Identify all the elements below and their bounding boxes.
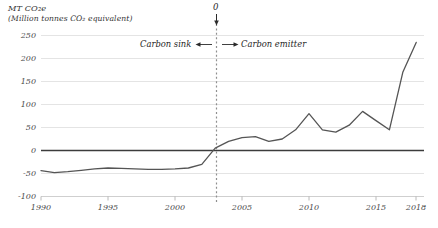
chart-container: MT CO₂e (Million tonnes CO₂ equivalent) bbox=[0, 0, 438, 228]
y-axis-unit-title: MT CO₂e bbox=[8, 3, 46, 13]
y-tick-label-minus100: -100 bbox=[10, 192, 36, 201]
y-axis-unit-subtitle: (Million tonnes CO₂ equivalent) bbox=[8, 14, 132, 25]
y-tick-label-50: 50 bbox=[10, 123, 36, 132]
x-tick-label-2010: 2010 bbox=[289, 203, 329, 212]
carbon-sink-label: Carbon sink bbox=[140, 39, 191, 49]
x-axis-ticks bbox=[41, 197, 416, 201]
x-tick-label-2015: 2015 bbox=[356, 203, 396, 212]
carbon-sink-arrow-icon bbox=[196, 42, 213, 47]
x-tick-label-2000: 2000 bbox=[155, 203, 195, 212]
y-tick-label-250: 250 bbox=[10, 31, 36, 40]
y-tick-label-0: 0 bbox=[10, 146, 36, 155]
y-tick-label-200: 200 bbox=[10, 54, 36, 63]
x-tick-label-2005: 2005 bbox=[222, 203, 262, 212]
zero-crossing-label: 0 bbox=[213, 2, 218, 12]
x-tick-label-1995: 1995 bbox=[88, 203, 128, 212]
x-tick-label-1990: 1990 bbox=[21, 203, 61, 212]
chart-plot-svg bbox=[0, 0, 438, 228]
y-tick-label-100: 100 bbox=[10, 100, 36, 109]
carbon-emitter-label: Carbon emitter bbox=[241, 39, 306, 49]
x-tick-label-2018: 2018 bbox=[396, 203, 436, 212]
gridlines bbox=[41, 36, 424, 197]
chart-axis-title: MT CO₂e (Million tonnes CO₂ equivalent) bbox=[8, 3, 132, 24]
y-tick-label-minus50: -50 bbox=[10, 169, 36, 178]
data-series-net-emissions bbox=[41, 42, 416, 172]
zero-crossing-arrow-icon bbox=[214, 14, 219, 26]
carbon-emitter-arrow-icon bbox=[222, 42, 239, 47]
y-tick-label-150: 150 bbox=[10, 77, 36, 86]
